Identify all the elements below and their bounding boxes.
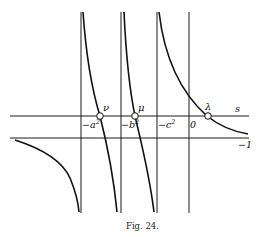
left-branch-curve: [15, 140, 79, 212]
root-lambda-label: λ: [204, 101, 211, 112]
s-axis-label: s: [235, 103, 240, 114]
nu-branch-curve: [83, 12, 117, 212]
minus-one-label: −1: [238, 139, 252, 150]
tick-minus-b2: −b2: [121, 118, 139, 130]
root-lambda-point: [205, 113, 212, 120]
tick-minus-c2: −c2: [158, 118, 175, 130]
root-mu-label: μ: [138, 102, 145, 113]
figure-caption: Fig. 24.: [126, 221, 159, 231]
root-nu-label: ν: [103, 102, 109, 113]
hyperbola-roots-diagram: ν μ λ s −1 −a2 −b2 −c2 0 Fig. 24.: [0, 0, 258, 237]
tick-minus-a2: −a2: [82, 118, 100, 130]
tick-zero: 0: [190, 119, 196, 130]
